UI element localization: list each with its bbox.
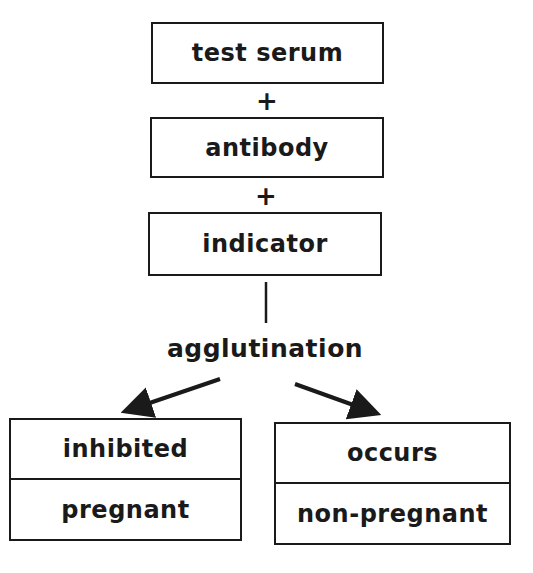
step-label: indicator xyxy=(202,230,327,258)
outcome-box-occurs: occurs non-pregnant xyxy=(274,422,511,545)
arrow-to-occurs xyxy=(295,384,370,411)
outcome-result: occurs xyxy=(276,424,509,484)
plus-operator: + xyxy=(246,183,286,209)
outcome-box-inhibited: inhibited pregnant xyxy=(9,418,242,541)
reaction-label: agglutination xyxy=(140,334,390,363)
step-box-indicator: indicator xyxy=(148,212,382,276)
plus-operator: + xyxy=(247,88,287,114)
outcome-result: inhibited xyxy=(11,420,240,480)
step-box-antibody: antibody xyxy=(150,117,384,178)
outcome-interpretation: non-pregnant xyxy=(276,484,509,543)
step-label: test serum xyxy=(192,39,343,67)
arrow-to-inhibited xyxy=(132,379,220,409)
outcome-interpretation: pregnant xyxy=(11,480,240,539)
step-label: antibody xyxy=(205,134,328,162)
step-box-test-serum: test serum xyxy=(151,22,384,84)
